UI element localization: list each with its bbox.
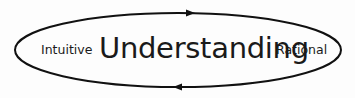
intuitive-label: Intuitive [41,42,92,57]
arrow-right-icon [186,10,195,17]
rational-label: Rational [276,42,327,57]
arrow-left-icon [173,84,182,91]
